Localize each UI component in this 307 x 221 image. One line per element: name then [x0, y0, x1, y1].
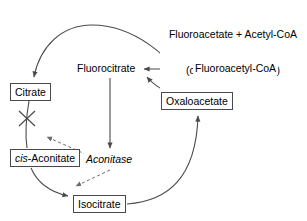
edge-citrate-to-cis-aconitate — [26, 101, 29, 148]
edge-aconitase-to-isocitrate-step — [76, 170, 110, 186]
edge-cis-aconitate-to-isocitrate — [31, 168, 68, 196]
aconitase-block-marker — [19, 111, 35, 126]
pathway-diagram: Fluoroacetate + Acetyl-CoA (or fluoroace… — [0, 0, 307, 221]
node-citrate: Citrate — [10, 83, 51, 101]
cis-aconitate-prefix: cis — [15, 152, 28, 164]
node-fluoroacetate-input: Fluoroacetate + Acetyl-CoA (or fluoroace… — [160, 3, 306, 102]
edge-isocitrate-to-oxaloacetate — [127, 116, 198, 204]
fluoroacetate-input-line-1: Fluoroacetate + Acetyl-CoA — [162, 28, 304, 40]
node-aconitase: Aconitase — [84, 152, 134, 166]
node-cis-aconitate: cis-Aconitate — [10, 149, 80, 167]
node-fluoroacetyl-coa: Fluoroacetyl-CoA — [193, 61, 278, 75]
node-isocitrate: Isocitrate — [73, 195, 126, 213]
cis-aconitate-rest: -Aconitate — [28, 152, 75, 164]
node-oxaloacetate: Oxaloacetate — [161, 92, 233, 110]
node-fluorocitrate: Fluorocitrate — [75, 61, 137, 75]
